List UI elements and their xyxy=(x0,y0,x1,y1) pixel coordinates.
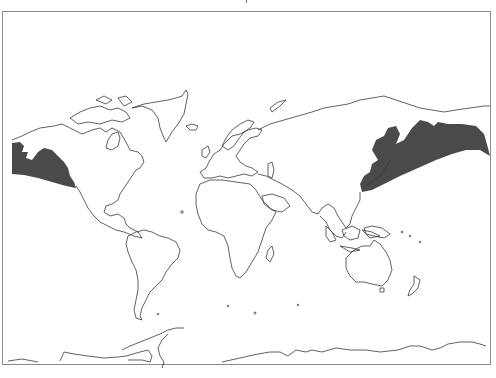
range-region-east-pacific xyxy=(12,142,76,188)
small-islands xyxy=(157,211,421,315)
hudson-bay-outline xyxy=(106,132,120,150)
antarctica-outline-east xyxy=(222,342,486,362)
tasmania-outline xyxy=(380,288,384,292)
new-zealand-outline xyxy=(408,276,420,296)
arctic-archipelago-outline xyxy=(70,96,132,124)
asia-outline xyxy=(258,96,490,228)
southeast-asia-outline xyxy=(320,216,380,252)
greenland-outline xyxy=(132,90,188,142)
caspian-sea-outline xyxy=(268,162,274,178)
africa-outline xyxy=(196,180,276,278)
north-america-outline xyxy=(12,124,144,238)
british-isles-outline xyxy=(202,146,210,158)
range-region-west-pacific xyxy=(360,120,490,192)
arabia-outline xyxy=(262,194,290,212)
novaya-zemlya-outline xyxy=(270,100,286,112)
world-map xyxy=(0,0,496,378)
madagascar-outline xyxy=(266,246,274,262)
south-america-outline xyxy=(126,230,180,320)
scandinavia-outline xyxy=(222,120,254,150)
antarctica-outline-west xyxy=(8,350,152,362)
iceland-outline xyxy=(186,124,198,130)
australia-outline xyxy=(346,240,392,286)
antarctic-peninsula-outline xyxy=(122,328,184,368)
